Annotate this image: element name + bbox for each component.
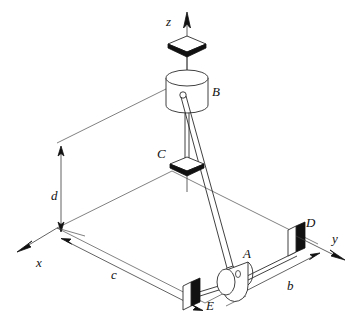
dimension-c-label: c: [111, 267, 117, 282]
dimension-c-arrow-right: [193, 305, 204, 311]
figure-container: d c b z: [0, 0, 354, 325]
rod-edge-left: [181, 97, 227, 268]
dimension-d-label: d: [51, 188, 58, 203]
diamond-bearing-c: C: [157, 146, 204, 176]
axis-y-label: y: [330, 231, 338, 246]
upper-edge-back-left: [57, 86, 172, 143]
upper-reference-frame: [57, 86, 172, 228]
dimension-c-line: [66, 241, 198, 308]
point-b-label: B: [212, 84, 220, 99]
axis-x-arrowhead: [17, 241, 32, 252]
block-bearing-d: D: [288, 215, 316, 256]
base-edge-back-left: [57, 171, 172, 228]
hub-a-end-face: [217, 269, 235, 295]
cylinder-b: B: [166, 70, 220, 113]
dimension-d: d: [51, 146, 64, 232]
bearing-e-front-face: [183, 282, 191, 310]
connecting-rod-ba: [181, 96, 238, 285]
point-d-label: D: [305, 215, 316, 230]
mechanism-diagram: d c b z: [0, 0, 354, 325]
axis-z-arrowhead: [184, 12, 191, 28]
top-diamond-bearing: [168, 36, 206, 57]
axis-x-label: x: [35, 255, 42, 270]
axis-x: x: [17, 228, 85, 270]
point-a-label: A: [242, 246, 251, 261]
dimension-b-label: b: [287, 278, 294, 293]
pin-joint-a: [236, 271, 241, 278]
hub-collar-a: A: [217, 246, 253, 301]
rod-edge-right: [186, 96, 233, 266]
base-reference-frame: [57, 171, 318, 303]
axis-x-line: [27, 228, 57, 246]
axis-z-label: z: [165, 14, 171, 29]
point-e-label: E: [205, 298, 214, 313]
bearing-d-front-face: [288, 226, 296, 256]
dimension-b-arrow-right: [310, 253, 321, 260]
axis-y-arrowhead: [330, 250, 345, 260]
bearing-e-dark-side: [191, 278, 200, 306]
dimension-c-arrow-left: [61, 239, 72, 245]
dimension-c: c: [61, 239, 203, 311]
point-c-label: C: [157, 146, 166, 161]
cylinder-b-top-face: [166, 70, 208, 86]
